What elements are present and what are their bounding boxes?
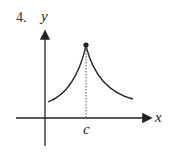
problem-number: 4. bbox=[16, 10, 27, 25]
peak-point bbox=[83, 42, 88, 47]
curve-right bbox=[86, 46, 133, 99]
x-axis-label: x bbox=[154, 109, 162, 125]
y-axis-label: y bbox=[39, 8, 48, 24]
graph: 4. x y c bbox=[0, 0, 172, 152]
c-tick-label: c bbox=[83, 121, 90, 137]
curve-left bbox=[48, 46, 86, 102]
